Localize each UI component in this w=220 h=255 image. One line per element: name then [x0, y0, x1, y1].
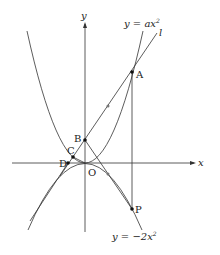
upper-curve-label: y = ax2 — [123, 17, 160, 29]
midpoint-marker — [107, 105, 110, 108]
midpoint-marker-lower — [107, 173, 110, 176]
y-axis-label: y — [80, 10, 87, 21]
parabola-diagram: x y O A B C D P y = ax2 l y = −2x2 — [0, 0, 220, 255]
point-P — [130, 207, 134, 211]
segment-CO — [73, 157, 85, 163]
x-axis-arrow-icon — [190, 161, 196, 165]
label-C: C — [67, 145, 75, 156]
x-axis-label: x — [198, 157, 204, 168]
label-D: D — [59, 158, 67, 169]
tangent-line-D — [30, 163, 68, 221]
label-B: B — [74, 133, 81, 144]
lower-curve-label: y = −2x2 — [111, 230, 157, 242]
point-B — [83, 138, 87, 142]
point-A — [130, 70, 134, 74]
line-l-label: l — [159, 27, 162, 38]
diagram-canvas: x y O A B C D P y = ax2 l y = −2x2 — [0, 0, 220, 255]
label-P: P — [135, 204, 142, 215]
origin-label: O — [88, 167, 96, 178]
label-A: A — [135, 69, 144, 80]
y-axis-arrow-icon — [83, 22, 87, 28]
